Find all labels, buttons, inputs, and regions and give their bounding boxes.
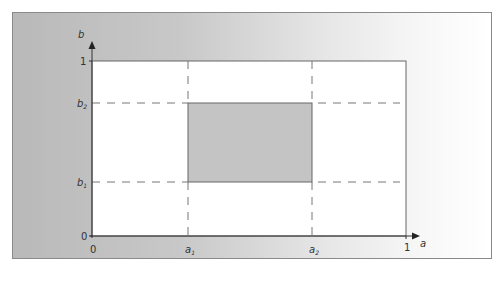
x-axis-arrow-icon — [412, 233, 420, 240]
shaded-region — [188, 103, 312, 182]
y-tick-label-b2: b2 — [77, 98, 87, 110]
y-axis-arrow-icon — [89, 41, 96, 49]
y-tick-label-b1: b1 — [77, 177, 87, 189]
x-axis-label: a — [420, 238, 426, 249]
x-tick-label-1: 1 — [404, 242, 410, 253]
y-tick-label-0: 0 — [81, 231, 87, 242]
y-axis-label: b — [78, 29, 84, 40]
y-tick-label-1: 1 — [80, 56, 86, 67]
x-tick-label-a1: a1 — [185, 244, 195, 256]
x-tick-label-a2: a2 — [309, 244, 319, 256]
diagram-canvas: b 1 b2 b1 0 0 a1 a2 1 a — [0, 0, 500, 285]
x-tick-label-0: 0 — [90, 244, 96, 255]
